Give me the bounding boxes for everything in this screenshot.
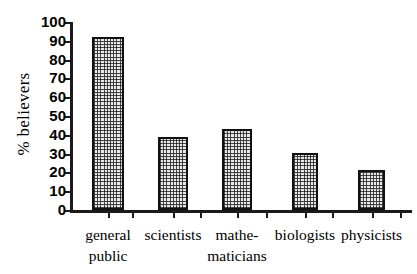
bar-chart: % believers 0102030405060708090100 gener…: [0, 0, 417, 274]
x-tick-mark: [237, 213, 239, 218]
x-tick-mark: [372, 213, 374, 218]
x-tick-mark-minor: [200, 213, 202, 218]
y-tick-label: 20: [36, 163, 66, 180]
x-axis-label: physicists: [320, 224, 417, 245]
x-axis-labels: generalpublicscientistsmathe-maticiansbi…: [70, 224, 412, 272]
x-tick-mark: [305, 213, 307, 218]
plot-area: 0102030405060708090100: [70, 22, 412, 212]
x-tick-mark: [173, 213, 175, 218]
x-axis-label-line2: public: [56, 245, 160, 266]
bar: [358, 170, 385, 210]
x-tick-mark-minor: [400, 213, 402, 218]
x-tick-mark-minor: [132, 213, 134, 218]
bar: [222, 129, 252, 210]
y-tick-label: 80: [36, 51, 66, 68]
x-tick-mark-minor: [266, 213, 268, 218]
bar: [158, 137, 188, 210]
y-tick-label: 70: [36, 69, 66, 86]
y-tick-label: 40: [36, 126, 66, 143]
x-tick-mark-minor: [332, 213, 334, 218]
y-tick-label: 90: [36, 32, 66, 49]
y-tick-label: 60: [36, 88, 66, 105]
y-tick-label: 100: [36, 13, 66, 30]
bar: [92, 37, 124, 210]
x-axis-label-line2: maticians: [185, 245, 289, 266]
x-axis-label-line1: physicists: [320, 224, 417, 245]
y-tick-label: 50: [36, 107, 66, 124]
x-tick-mark: [108, 213, 110, 218]
y-axis-title: % believers: [14, 44, 34, 184]
y-axis-line: [70, 22, 73, 213]
y-tick-label: 0: [36, 201, 66, 218]
x-axis-line: [70, 210, 412, 213]
y-tick-label: 10: [36, 182, 66, 199]
bar: [292, 153, 318, 210]
y-tick-label: 30: [36, 145, 66, 162]
